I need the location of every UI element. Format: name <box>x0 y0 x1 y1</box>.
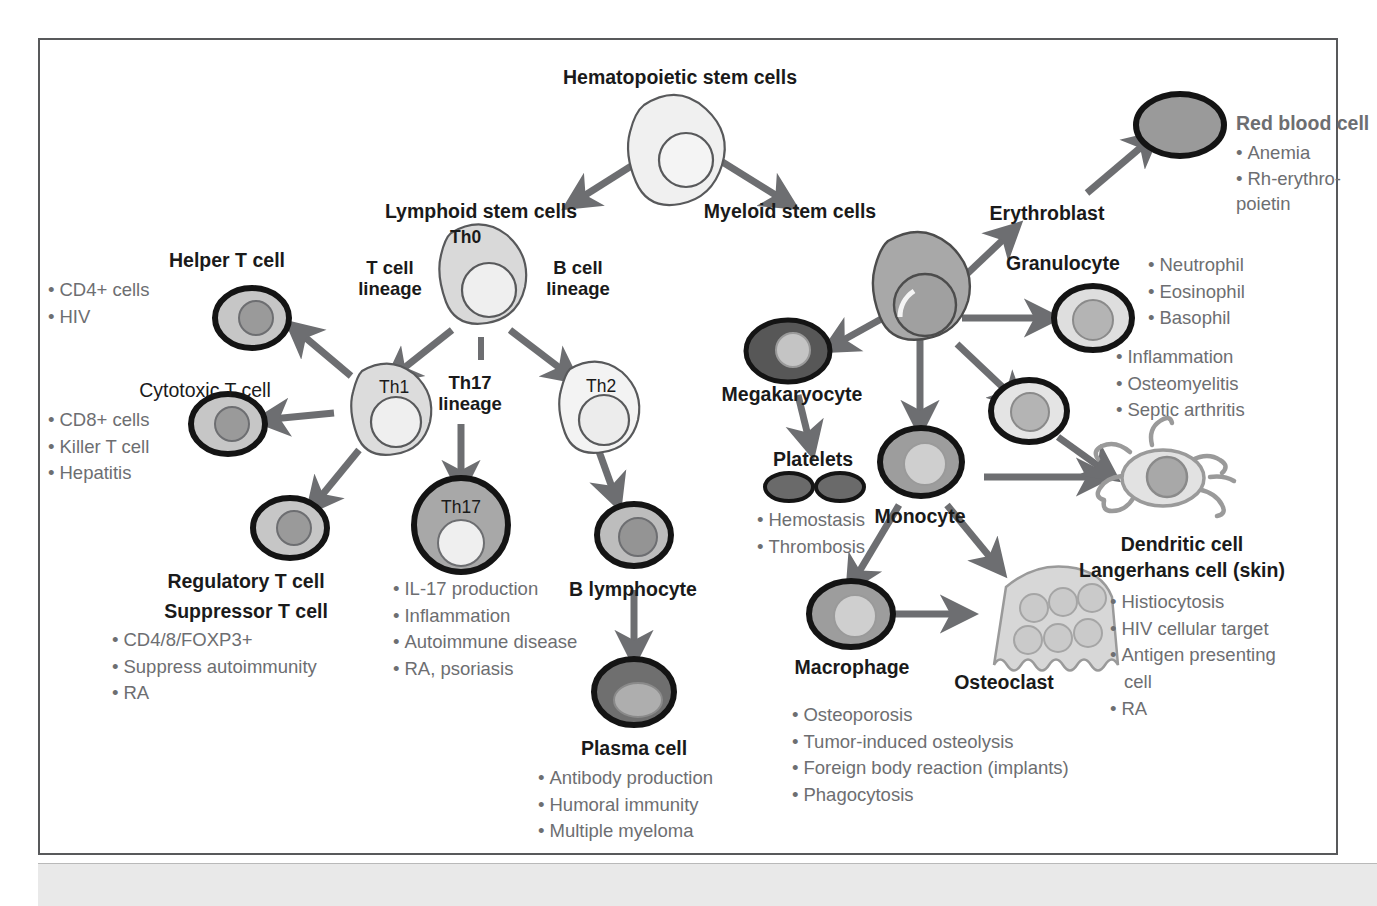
page-title: Hematopoietic stem cells <box>563 66 797 89</box>
bullets-th17: IL-17 production Inflammation Autoimmune… <box>393 576 577 683</box>
label-b-lymphocyte: B lymphocyte <box>569 578 697 601</box>
cell-text-th17: Th17 <box>441 497 481 517</box>
bullet: Thrombosis <box>757 534 865 561</box>
bullet: RA, psoriasis <box>393 656 577 683</box>
label-t-cell-lineage: T cell lineage <box>358 257 422 300</box>
label-platelets: Platelets <box>773 448 853 471</box>
bullet: Inflammation <box>1116 344 1245 371</box>
bullet-continuation: poietin <box>1236 191 1341 217</box>
bullet: IL-17 production <box>393 576 577 603</box>
label-myeloid-stem: Myeloid stem cells <box>704 200 876 223</box>
cell-text-th2: Th2 <box>586 376 616 396</box>
label-granulocyte: Granulocyte <box>1006 252 1120 275</box>
label-erythroblast: Erythroblast <box>990 202 1105 225</box>
bullets-regulatory-t: CD4/8/FOXP3+ Suppress autoimmunity RA <box>112 627 317 707</box>
bullet: Eosinophil <box>1148 279 1245 306</box>
bullets-helper-t: CD4+ cells HIV <box>48 277 149 330</box>
label-macrophage: Macrophage <box>795 656 910 679</box>
bullet: HIV <box>48 304 149 331</box>
cell-text-th0: Th0 <box>450 227 481 247</box>
label-dendritic-cell: Dendritic cell <box>1121 533 1243 556</box>
label-lymphoid-stem: Lymphoid stem cells <box>385 200 577 223</box>
bullet: Basophil <box>1148 305 1245 332</box>
label-b-cell-lineage: B cell lineage <box>546 257 610 300</box>
bullet: Osteoporosis <box>792 702 1069 729</box>
label-red-blood-cell: Red blood cell <box>1236 112 1369 135</box>
bullet: Hemostasis <box>757 507 865 534</box>
figure-frame <box>38 38 1338 855</box>
bullet: Multiple myeloma <box>538 818 713 845</box>
t-lineage-line2: lineage <box>358 278 422 299</box>
bullet: Hepatitis <box>48 460 149 487</box>
b-lineage-line2: lineage <box>546 278 610 299</box>
label-th17-lineage: Th17 lineage <box>438 372 502 415</box>
bullet: Antibody production <box>538 765 713 792</box>
bullets-platelets: Hemostasis Thrombosis <box>757 507 865 560</box>
bullet: Rh-erythro- <box>1236 166 1341 192</box>
bullets-plasma-cell: Antibody production Humoral immunity Mul… <box>538 765 713 845</box>
label-plasma-cell: Plasma cell <box>581 737 687 760</box>
bullet: CD4+ cells <box>48 277 149 304</box>
bullet: Tumor-induced osteolysis <box>792 729 1069 756</box>
bullet: Anemia <box>1236 140 1341 166</box>
bullet: Phagocytosis <box>792 782 1069 809</box>
th17-lineage-line2: lineage <box>438 393 502 414</box>
bullet: Foreign body reaction (implants) <box>792 755 1069 782</box>
regulatory-line2: Suppressor T cell <box>164 600 328 623</box>
label-cytotoxic-t-cell: Cytotoxic T cell <box>139 379 271 402</box>
label-osteoclast: Osteoclast <box>954 671 1054 694</box>
bullet: Antigen presenting <box>1110 642 1276 669</box>
label-monocyte: Monocyte <box>874 505 965 528</box>
bullet: RA <box>1110 696 1276 723</box>
bullets-osteoclast: Osteoporosis Tumor-induced osteolysis Fo… <box>792 702 1069 809</box>
bullets-granulocyte-types: Neutrophil Eosinophil Basophil <box>1148 252 1245 332</box>
bullet: Killer T cell <box>48 434 149 461</box>
bottom-band <box>38 863 1377 906</box>
bullet: Osteomyelitis <box>1116 371 1245 398</box>
bullet: HIV cellular target <box>1110 616 1276 643</box>
bullet: Humoral immunity <box>538 792 713 819</box>
th17-lineage-line1: Th17 <box>438 372 502 393</box>
bullet: Histiocytosis <box>1110 589 1276 616</box>
bullet: Autoimmune disease <box>393 629 577 656</box>
bullets-granulocyte: Inflammation Osteomyelitis Septic arthri… <box>1116 344 1245 424</box>
bullet: Suppress autoimmunity <box>112 654 317 681</box>
bullet: CD4/8/FOXP3+ <box>112 627 317 654</box>
b-lineage-line1: B cell <box>546 257 610 278</box>
label-langerhans-cell: Langerhans cell (skin) <box>1079 559 1285 582</box>
label-regulatory-t-cell: Regulatory T cell Suppressor T cell <box>164 570 328 622</box>
cell-text-th1: Th1 <box>379 377 409 397</box>
bullets-cytotoxic-t: CD8+ cells Killer T cell Hepatitis <box>48 407 149 487</box>
label-megakaryocyte: Megakaryocyte <box>722 383 863 406</box>
bullets-red-blood-cell: Anemia Rh-erythro- poietin <box>1236 140 1341 217</box>
t-lineage-line1: T cell <box>358 257 422 278</box>
bullets-dendritic: Histiocytosis HIV cellular target Antige… <box>1110 589 1276 722</box>
bullet: CD8+ cells <box>48 407 149 434</box>
bullet: RA <box>112 680 317 707</box>
bullet: Septic arthritis <box>1116 397 1245 424</box>
bullet: Inflammation <box>393 603 577 630</box>
regulatory-line1: Regulatory T cell <box>164 570 328 593</box>
bullet: Neutrophil <box>1148 252 1245 279</box>
bullet-continuation: cell <box>1110 669 1276 696</box>
label-helper-t-cell: Helper T cell <box>169 249 285 272</box>
